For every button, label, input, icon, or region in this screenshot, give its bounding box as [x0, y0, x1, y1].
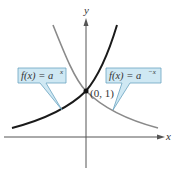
callout-decay: f(x) = a −x	[106, 68, 161, 110]
x-axis-label: x	[165, 130, 171, 142]
y-axis-label: y	[83, 4, 89, 16]
callout-decay-exponent: −x	[148, 68, 157, 76]
intersection-point	[84, 89, 89, 94]
point-label: (0, 1)	[90, 87, 114, 100]
x-axis-arrow-icon	[157, 135, 165, 140]
callout-decay-label: f(x) = a	[109, 70, 141, 82]
callout-growth-label: f(x) = a	[21, 70, 53, 82]
y-axis-arrow-icon	[84, 18, 89, 26]
exponential-graph: y x (0, 1) f(x) = a x f(x) = a −x	[0, 0, 181, 169]
callout-growth: f(x) = a x	[18, 68, 66, 110]
